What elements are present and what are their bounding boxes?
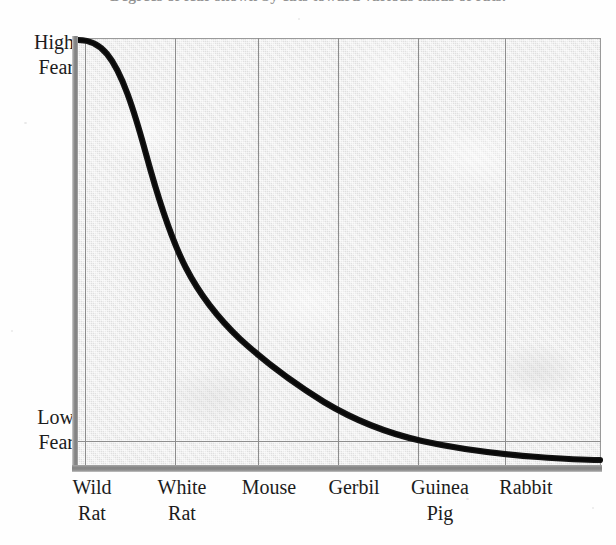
x-axis-label-white-rat-line1: White [158,476,207,498]
scan-speck [11,330,13,332]
y-axis-label-high-line1: High [34,31,74,53]
fear-curve-core [79,40,601,460]
x-axis-label-mouse-line1: Mouse [242,476,296,498]
x-axis-label-white-rat-line2: Rat [130,500,234,526]
x-axis-label-wild-rat-line2: Rat [40,500,144,526]
figure-title: Degrees of fear shown by cats toward var… [0,0,616,5]
x-axis-label-gerbil-line1: Gerbil [328,476,379,498]
y-axis-label-high-line2: Fear [38,56,74,78]
x-axis-label-wild-rat: Wild Rat [40,474,144,526]
x-axis-label-rabbit: Rabbit [474,474,578,500]
y-axis-label-low-fear: Low Fear [0,405,74,455]
x-axis-label-guinea-pig-line2: Pig [388,500,492,526]
scan-speck [24,122,27,124]
scanned-figure: Degrees of fear shown by cats toward var… [0,0,616,545]
x-axis-label-rabbit-line1: Rabbit [499,476,552,498]
y-axis-label-high-fear: High Fear [0,30,74,80]
plot-area [78,38,601,465]
x-axis-labels: Wild Rat White Rat Mouse Gerbil Guinea P… [40,474,610,538]
x-axis-line [72,465,602,472]
x-axis-label-guinea-pig-line1: Guinea [411,476,469,498]
scan-speck [298,18,300,20]
fear-curve [78,38,601,465]
x-axis-label-wild-rat-line1: Wild [72,476,111,498]
y-axis-line [72,36,78,469]
y-axis-label-low-line1: Low [37,406,74,428]
fear-curve-path [79,40,601,460]
figure-title-text: Degrees of fear shown by cats toward var… [0,0,616,5]
y-axis-label-low-line2: Fear [38,431,74,453]
